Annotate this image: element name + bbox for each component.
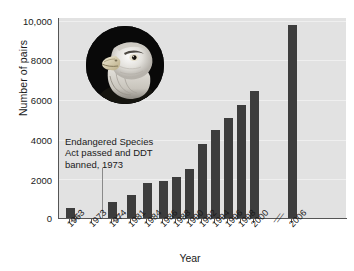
annotation-line-2: Act passed and DDT xyxy=(65,147,153,158)
gridline-6000 xyxy=(59,100,346,101)
y-axis-ticks: 10,000 8000 6000 4000 2000 0 xyxy=(6,0,52,271)
axis-break-1: // xyxy=(72,210,79,226)
bar-1994[interactable] xyxy=(211,130,220,218)
y-tick-label-8000: 8000 xyxy=(6,56,52,65)
y-tick-label-4000: 4000 xyxy=(6,136,52,145)
axis-break-2: // xyxy=(114,210,121,226)
bar-1992[interactable] xyxy=(198,144,207,218)
y-tick-label-6000: 6000 xyxy=(6,96,52,105)
x-axis-label: Year xyxy=(40,252,340,264)
gridline-10000 xyxy=(59,21,346,22)
annotation-line-1: Endangered Species xyxy=(65,136,153,147)
axis-break-3: // xyxy=(275,210,282,226)
annotation-line-3: banned, 1973 xyxy=(65,159,153,170)
bald-eagle-population-chart: Number of pairs 10,000 8000 6000 4000 20… xyxy=(0,0,354,271)
bar-1996[interactable] xyxy=(224,118,233,218)
y-tick-label-10000: 10,000 xyxy=(6,17,52,26)
bar-2000[interactable] xyxy=(250,91,259,219)
y-tick-label-0: 0 xyxy=(6,214,52,223)
bar-2006[interactable] xyxy=(288,25,297,218)
annotation-text: Endangered Species Act passed and DDT ba… xyxy=(65,136,153,170)
bald-eagle-photo xyxy=(86,26,164,104)
bar-1998[interactable] xyxy=(237,105,246,218)
y-tick-label-2000: 2000 xyxy=(6,176,52,185)
